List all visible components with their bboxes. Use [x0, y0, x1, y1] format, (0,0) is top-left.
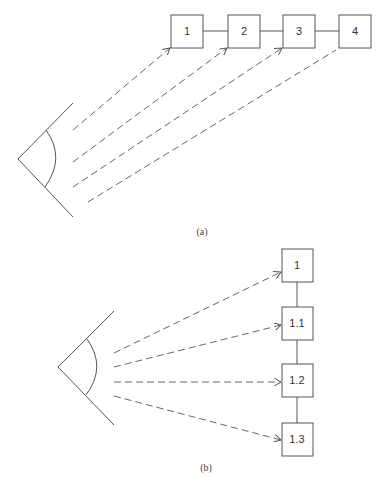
box-a-1: 1	[171, 15, 203, 48]
diagram-a: 1 2 3 4 (a)	[18, 15, 371, 238]
eye-icon	[18, 103, 73, 217]
box-a-2: 2	[228, 15, 260, 48]
box-label: 3	[296, 25, 302, 37]
box-label: 4	[352, 25, 358, 37]
box-a-3: 3	[283, 15, 315, 48]
box-b-1-2: 1.2	[282, 364, 313, 397]
sightline-a-4	[88, 50, 336, 202]
caption-b: (b)	[200, 462, 212, 474]
sightline-b-1	[114, 272, 281, 353]
box-label: 1.3	[289, 433, 304, 445]
box-b-1-1: 1.1	[282, 307, 313, 340]
box-label: 1	[184, 25, 190, 37]
box-a-4: 4	[339, 15, 371, 48]
box-label: 1.1	[289, 317, 304, 329]
box-label: 1	[294, 259, 300, 271]
box-b-1: 1	[282, 249, 313, 282]
sightline-a-3	[73, 48, 282, 187]
figure-canvas: 1 2 3 4 (a) 1	[0, 0, 381, 489]
sightline-b-4	[114, 396, 281, 440]
diagram-b: 1 1.1 1.2 1.3 (b)	[58, 249, 313, 474]
caption-a: (a)	[196, 226, 207, 238]
sightline-a-1	[73, 48, 170, 130]
eye-icon	[58, 311, 114, 425]
box-label: 1.2	[289, 374, 304, 386]
box-b-1-3: 1.3	[282, 423, 313, 456]
sightline-b-2	[114, 325, 281, 367]
box-label: 2	[241, 25, 247, 37]
